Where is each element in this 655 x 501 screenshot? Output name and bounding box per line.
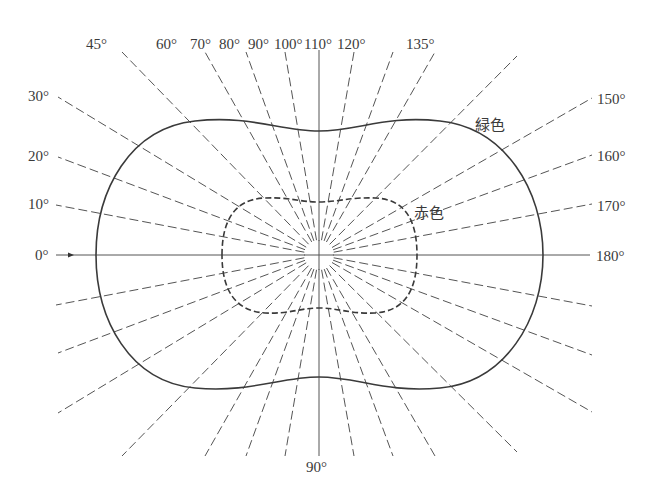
ray-upper: [246, 52, 314, 241]
green-curve-label: 緑色: [475, 116, 505, 134]
label-150: 150°: [597, 91, 626, 107]
label-110: 110°: [304, 36, 332, 52]
ray-lower: [334, 258, 592, 306]
ray-upper: [334, 204, 592, 252]
ray-upper: [58, 97, 306, 247]
ray-upper: [332, 98, 592, 248]
label-0: 0°: [35, 247, 49, 263]
ray-upper: [324, 52, 393, 241]
ray-lower: [285, 270, 317, 456]
label-10: 10°: [28, 196, 49, 212]
arrowhead-icon: [68, 253, 74, 258]
label-170: 170°: [597, 198, 626, 214]
label-90-bottom: 90°: [306, 459, 327, 475]
label-135: 135°: [406, 36, 435, 52]
ray-lower: [327, 268, 436, 456]
ray-upper: [285, 52, 317, 240]
label-160: 160°: [597, 148, 626, 164]
red-curve-label: 赤色: [414, 204, 444, 222]
label-90-top: 90°: [248, 36, 269, 52]
label-70: 70°: [190, 36, 211, 52]
ray-upper: [322, 52, 355, 240]
label-180: 180°: [596, 248, 625, 264]
label-30: 30°: [28, 88, 49, 104]
ray-lower: [332, 263, 592, 413]
label-45: 45°: [86, 36, 107, 52]
label-60: 60°: [156, 36, 177, 52]
ray-lower: [322, 270, 354, 456]
label-100: 100°: [274, 36, 303, 52]
label-120: 120°: [337, 36, 366, 52]
polar-diagram: 0° 10° 20° 30° 45° 60° 70° 80° 90° 100° …: [0, 0, 655, 501]
label-80: 80°: [219, 36, 240, 52]
ray-lower: [58, 263, 306, 413]
label-20: 20°: [28, 148, 49, 164]
ray-upper: [58, 157, 305, 250]
ray-lower: [324, 269, 393, 456]
ray-lower: [56, 258, 304, 305]
ray-upper: [205, 52, 312, 242]
ray-upper: [56, 205, 304, 252]
ray-lower: [246, 269, 314, 456]
ray-lower: [205, 268, 312, 456]
